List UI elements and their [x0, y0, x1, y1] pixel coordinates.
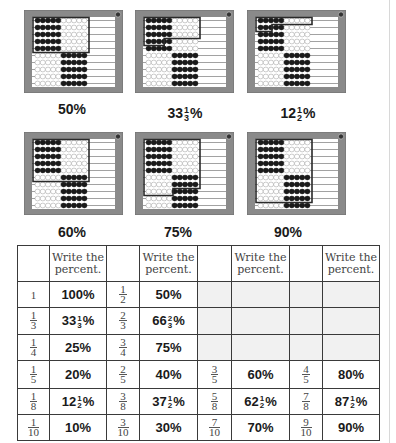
header-blank-4	[290, 246, 323, 282]
fraction: 12	[119, 285, 127, 304]
fraction-denominator: 8	[302, 402, 310, 411]
header-blank-1	[18, 246, 50, 282]
fraction: 14	[30, 338, 38, 357]
table-row: 133313%236623%	[18, 308, 380, 335]
fraction: 15	[30, 365, 38, 384]
percent-whole: 70%	[247, 420, 273, 435]
fraction-denominator: 8	[119, 402, 127, 411]
table-row: 1520%2540%3560%4580%	[18, 361, 380, 389]
caption-text: 50%	[58, 101, 86, 117]
empty-fraction-cell	[198, 308, 232, 335]
empty-percent-cell[interactable]	[232, 282, 290, 308]
fraction-denominator: 2	[119, 295, 127, 304]
fraction-denominator: 5	[211, 375, 219, 384]
fraction-denominator: 5	[30, 375, 38, 384]
caption-75-percent: 75%	[123, 224, 233, 240]
abacus-33-percent	[135, 10, 234, 93]
caption-90-percent: 90%	[233, 224, 343, 240]
empty-percent-cell[interactable]	[323, 335, 380, 361]
fraction: 58	[211, 392, 219, 411]
fraction-cell: 23	[107, 308, 140, 335]
caption-text: 75%	[164, 224, 192, 240]
percent-whole: 100%	[61, 287, 94, 302]
fraction-cell: 78	[290, 389, 323, 415]
percent-cell: 30%	[140, 415, 198, 441]
percent-sign: %	[356, 394, 368, 409]
percent-cell: 80%	[323, 361, 380, 389]
empty-percent-cell[interactable]	[232, 308, 290, 335]
fraction-cell: 14	[18, 335, 50, 361]
fraction: 910	[301, 418, 312, 437]
percent-cell: 8712%	[323, 389, 380, 415]
percent-whole: 80%	[338, 367, 364, 382]
fraction-cell: 13	[18, 308, 50, 335]
percent-cell: 10%	[50, 415, 107, 441]
percent-whole: 33	[62, 313, 76, 328]
caption-60-percent: 60%	[17, 224, 127, 240]
caption-whole: 33	[167, 105, 183, 121]
empty-percent-cell[interactable]	[323, 282, 380, 308]
fraction-denominator: 3	[119, 321, 127, 330]
fraction-cell: 110	[18, 415, 50, 441]
percent-cell: 25%	[50, 335, 107, 361]
percent-whole: 30%	[155, 420, 181, 435]
header-line-2: percent.	[328, 263, 374, 276]
percent-cell: 1212%	[50, 389, 107, 415]
fraction-denominator: 3	[168, 322, 172, 329]
fraction: 23	[119, 311, 127, 330]
percent-sign: %	[265, 394, 277, 409]
caption-50-percent: 50%	[17, 101, 127, 117]
abacus-60-percent	[24, 132, 123, 215]
percent-whole: 25%	[65, 340, 91, 355]
percent-fraction: 13	[77, 315, 81, 329]
fraction-denominator: 10	[301, 428, 312, 437]
fraction-cell: 25	[107, 361, 140, 389]
percent-whole: 62	[244, 394, 258, 409]
header-line-2: percent.	[55, 263, 101, 276]
fraction: 710	[209, 418, 220, 437]
percent-whole: 66	[152, 313, 166, 328]
table-row: 1425%3475%	[18, 335, 380, 361]
empty-fraction-cell	[290, 282, 323, 308]
table-row: 181212%383712%586212%788712%	[18, 389, 380, 415]
caption-fraction: 12	[297, 106, 302, 122]
empty-percent-cell[interactable]	[323, 308, 380, 335]
fraction-percent-table: Write thepercent. Write thepercent. Writ…	[17, 245, 380, 441]
fraction-cell: 12	[107, 282, 140, 308]
fraction-denominator: 8	[211, 402, 219, 411]
percent-fraction: 23	[168, 315, 172, 329]
caption-fraction: 13	[184, 106, 189, 122]
abacus-12-percent	[247, 10, 346, 93]
percent-sign: %	[173, 394, 185, 409]
fraction-denominator: 4	[119, 348, 127, 357]
header-line-2: percent.	[237, 263, 283, 276]
fraction-cell: 15	[18, 361, 50, 389]
fraction-cell: 34	[107, 335, 140, 361]
page-margin-line	[389, 0, 390, 443]
percent-sign: %	[83, 394, 95, 409]
fraction-denominator: 2	[168, 402, 172, 409]
fraction: 34	[119, 338, 127, 357]
percent-cell: 70%	[232, 415, 290, 441]
fraction-cell: 18	[18, 389, 50, 415]
fraction-cell: 58	[198, 389, 232, 415]
fraction-denominator: 3	[30, 321, 38, 330]
caption-33-third-percent: 3313%	[130, 105, 240, 122]
empty-percent-cell[interactable]	[232, 335, 290, 361]
percent-whole: 50%	[155, 287, 181, 302]
caption-text: 90%	[274, 224, 302, 240]
caption-text: 60%	[58, 224, 86, 240]
fraction-denominator: 5	[119, 375, 127, 384]
percent-whole: 87	[335, 394, 349, 409]
fraction-denominator: 10	[209, 428, 220, 437]
percent-cell: 6212%	[232, 389, 290, 415]
caption-12-half-percent: 1212%	[243, 105, 353, 122]
fraction: 310	[118, 418, 129, 437]
percent-fraction: 12	[350, 395, 354, 409]
percent-whole: 37	[152, 394, 166, 409]
fraction: 13	[30, 311, 38, 330]
fraction: 45	[302, 365, 310, 384]
fraction-cell: 310	[107, 415, 140, 441]
fraction-denominator: 10	[28, 428, 39, 437]
percent-sign: %	[83, 313, 95, 328]
